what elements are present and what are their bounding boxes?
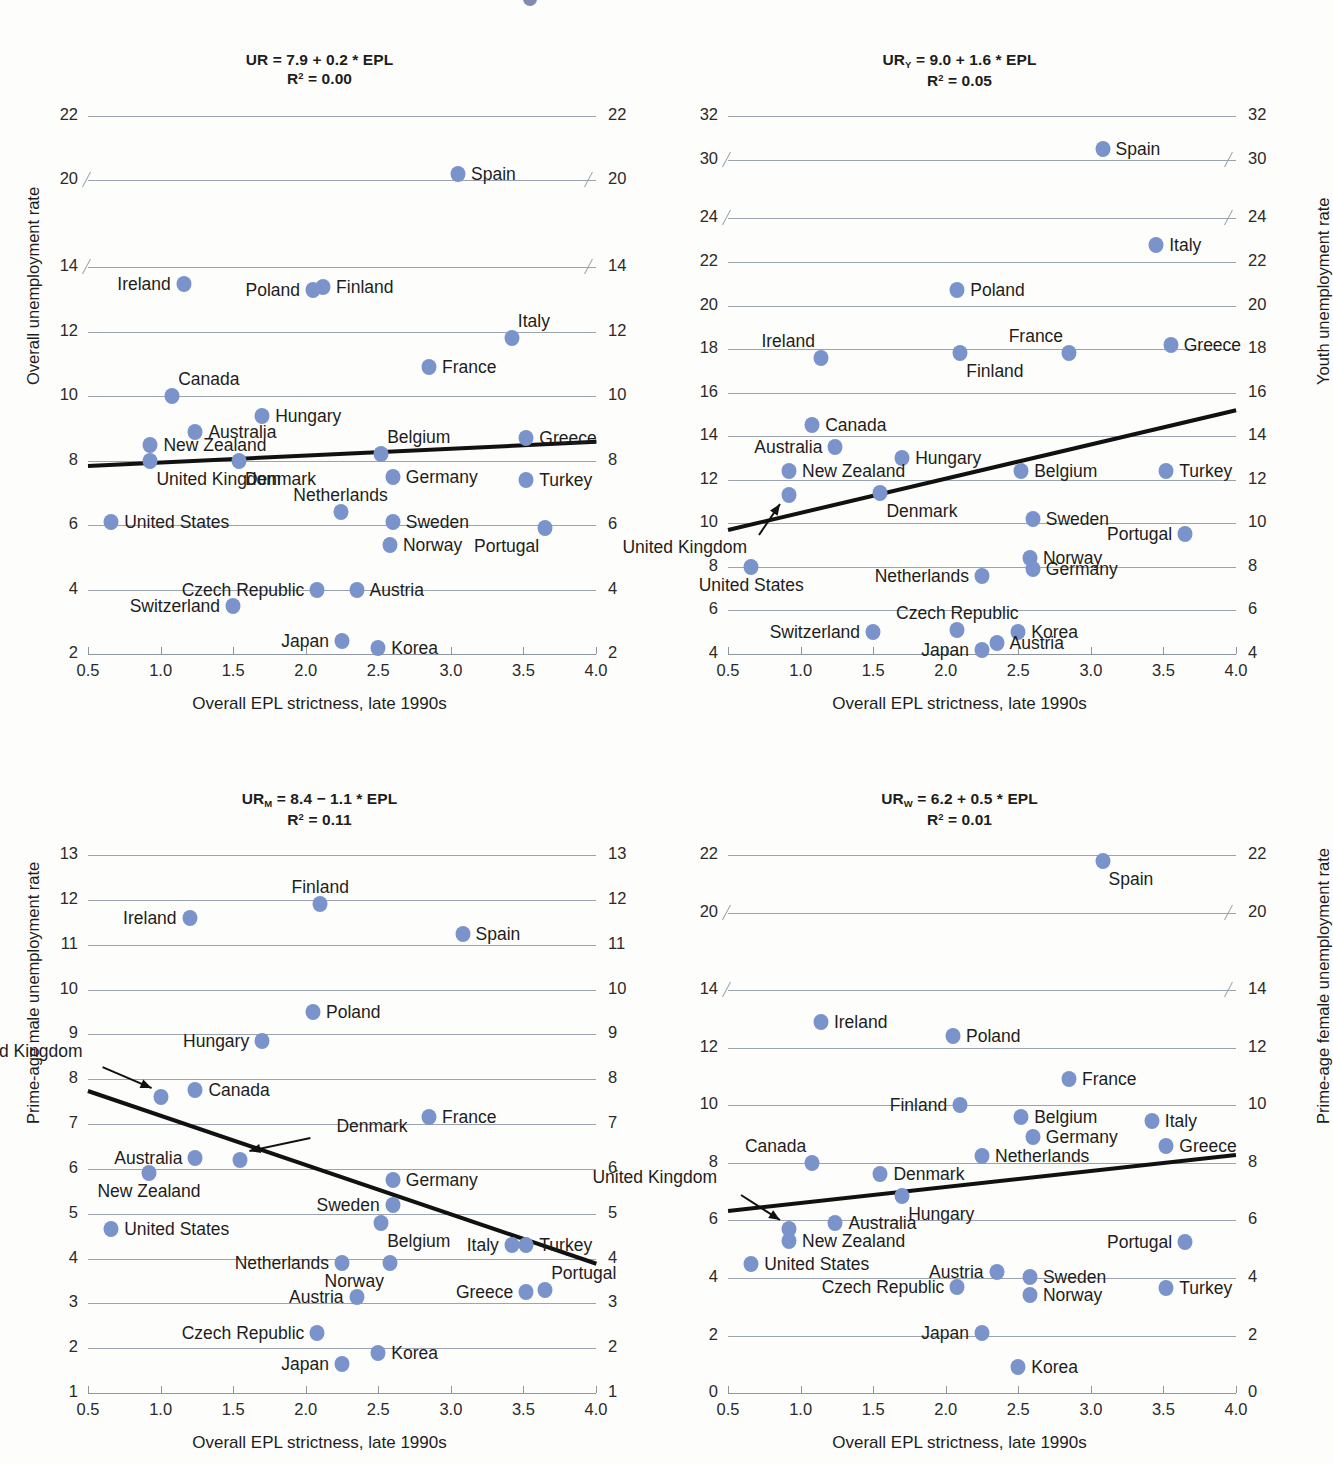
data-point[interactable] xyxy=(866,624,881,640)
data-point[interactable] xyxy=(335,1356,350,1372)
data-point[interactable] xyxy=(950,1279,965,1295)
data-point[interactable] xyxy=(1062,1071,1077,1087)
data-point[interactable] xyxy=(1062,345,1077,361)
data-point[interactable] xyxy=(349,1289,364,1305)
data-point[interactable] xyxy=(316,279,331,295)
data-point[interactable] xyxy=(1144,1113,1159,1129)
y-tick-label: 4 xyxy=(670,1267,718,1286)
data-point[interactable] xyxy=(975,642,990,658)
data-point[interactable] xyxy=(165,388,180,404)
data-point[interactable] xyxy=(953,345,968,361)
data-point[interactable] xyxy=(1014,1109,1029,1125)
data-point[interactable] xyxy=(422,359,437,375)
data-point[interactable] xyxy=(1022,1287,1037,1303)
data-point[interactable] xyxy=(422,1109,437,1125)
point-label: Japan xyxy=(921,1324,969,1342)
data-point[interactable] xyxy=(1159,1138,1174,1154)
data-point[interactable] xyxy=(504,330,519,346)
data-point[interactable] xyxy=(371,640,386,656)
data-point[interactable] xyxy=(950,282,965,298)
data-point[interactable] xyxy=(1022,1269,1037,1285)
data-point[interactable] xyxy=(306,1004,321,1020)
data-point[interactable] xyxy=(504,1237,519,1253)
data-point[interactable] xyxy=(1149,237,1164,253)
data-point[interactable] xyxy=(382,1255,397,1271)
data-point[interactable] xyxy=(782,487,797,503)
point-label: Portugal xyxy=(551,1264,616,1282)
data-point[interactable] xyxy=(946,1028,961,1044)
data-point[interactable] xyxy=(153,1089,168,1105)
data-point[interactable] xyxy=(1011,1359,1026,1375)
data-point[interactable] xyxy=(349,582,364,598)
data-point[interactable] xyxy=(950,622,965,638)
data-point[interactable] xyxy=(385,1172,400,1188)
data-point[interactable] xyxy=(519,472,534,488)
data-point[interactable] xyxy=(231,453,246,469)
data-point[interactable] xyxy=(188,1082,203,1098)
data-point[interactable] xyxy=(744,1256,759,1272)
data-point[interactable] xyxy=(143,437,158,453)
data-point[interactable] xyxy=(519,1237,534,1253)
data-point[interactable] xyxy=(1163,337,1178,353)
data-point[interactable] xyxy=(104,1221,119,1237)
data-point[interactable] xyxy=(371,1345,386,1361)
data-point[interactable] xyxy=(226,598,241,614)
data-point[interactable] xyxy=(975,1148,990,1164)
data-point[interactable] xyxy=(989,635,1004,651)
data-point[interactable] xyxy=(374,446,389,462)
data-point[interactable] xyxy=(538,1282,553,1298)
data-point[interactable] xyxy=(828,1215,843,1231)
data-point[interactable] xyxy=(333,504,348,520)
data-point[interactable] xyxy=(1025,511,1040,527)
data-point[interactable] xyxy=(1178,526,1193,542)
data-point[interactable] xyxy=(104,514,119,530)
data-point[interactable] xyxy=(374,1215,389,1231)
data-point[interactable] xyxy=(455,926,470,942)
data-point[interactable] xyxy=(519,1284,534,1300)
data-point[interactable] xyxy=(1159,463,1174,479)
data-point[interactable] xyxy=(188,1150,203,1166)
data-point[interactable] xyxy=(873,1166,888,1182)
data-point[interactable] xyxy=(895,1188,910,1204)
data-point[interactable] xyxy=(805,1155,820,1171)
data-point[interactable] xyxy=(255,1033,270,1049)
data-point[interactable] xyxy=(385,514,400,530)
data-point[interactable] xyxy=(813,1014,828,1030)
data-point[interactable] xyxy=(382,537,397,553)
data-point[interactable] xyxy=(782,1233,797,1249)
data-point[interactable] xyxy=(385,469,400,485)
gridline xyxy=(728,262,1236,263)
data-point[interactable] xyxy=(805,417,820,433)
data-point[interactable] xyxy=(538,520,553,536)
data-point[interactable] xyxy=(1178,1234,1193,1250)
data-point[interactable] xyxy=(975,568,990,584)
data-point[interactable] xyxy=(143,453,158,469)
data-point[interactable] xyxy=(142,1165,157,1181)
data-point[interactable] xyxy=(1025,1129,1040,1145)
data-point[interactable] xyxy=(176,276,191,292)
data-point[interactable] xyxy=(313,896,328,912)
data-point[interactable] xyxy=(1095,853,1110,869)
point-label: Hungary xyxy=(183,1032,249,1050)
data-point[interactable] xyxy=(1025,561,1040,577)
data-point[interactable] xyxy=(519,430,534,446)
data-point[interactable] xyxy=(335,633,350,649)
data-point[interactable] xyxy=(182,910,197,926)
data-point[interactable] xyxy=(310,1325,325,1341)
data-point[interactable] xyxy=(335,1255,350,1271)
data-point[interactable] xyxy=(828,439,843,455)
data-point[interactable] xyxy=(813,350,828,366)
data-point[interactable] xyxy=(989,1264,1004,1280)
data-point[interactable] xyxy=(1095,141,1110,157)
data-point[interactable] xyxy=(782,463,797,479)
data-point[interactable] xyxy=(233,1152,248,1168)
data-point[interactable] xyxy=(744,559,759,575)
data-point[interactable] xyxy=(1159,1280,1174,1296)
data-point[interactable] xyxy=(385,1197,400,1213)
data-point[interactable] xyxy=(873,485,888,501)
data-point[interactable] xyxy=(953,1097,968,1113)
data-point[interactable] xyxy=(975,1325,990,1341)
data-point[interactable] xyxy=(1014,463,1029,479)
data-point[interactable] xyxy=(310,582,325,598)
data-point[interactable] xyxy=(451,166,466,182)
